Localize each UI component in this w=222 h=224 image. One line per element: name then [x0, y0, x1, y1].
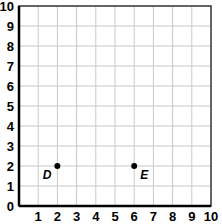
y-tick-label: 8 — [7, 39, 14, 54]
x-tick-label: 7 — [150, 209, 157, 224]
y-tick-label: 7 — [7, 59, 14, 74]
y-tick-labels: 012345678910 — [0, 0, 15, 214]
y-tick-label: 2 — [7, 159, 14, 174]
x-tick-label: 2 — [54, 209, 61, 224]
x-tick-labels: 12345678910 — [35, 209, 219, 224]
y-tick-label: 4 — [7, 119, 15, 134]
y-tick-label: 0 — [7, 199, 14, 214]
y-tick-label: 1 — [7, 179, 14, 194]
x-tick-label: 5 — [111, 209, 118, 224]
y-tick-label: 5 — [7, 99, 14, 114]
x-tick-label: 3 — [73, 209, 80, 224]
y-tick-label: 6 — [7, 79, 14, 94]
y-tick-label: 10 — [0, 0, 14, 14]
x-tick-label: 8 — [169, 209, 176, 224]
point-marker — [131, 163, 137, 169]
y-tick-label: 3 — [7, 139, 14, 154]
point-label: D — [43, 168, 52, 182]
y-tick-label: 9 — [7, 19, 14, 34]
x-tick-label: 1 — [35, 209, 42, 224]
x-tick-label: 4 — [92, 209, 100, 224]
coordinate-grid: 12345678910 012345678910 DE — [0, 0, 222, 224]
point-label: E — [140, 168, 149, 182]
point-marker — [54, 163, 60, 169]
x-tick-label: 9 — [188, 209, 195, 224]
x-tick-label: 10 — [204, 209, 218, 224]
x-tick-label: 6 — [131, 209, 138, 224]
